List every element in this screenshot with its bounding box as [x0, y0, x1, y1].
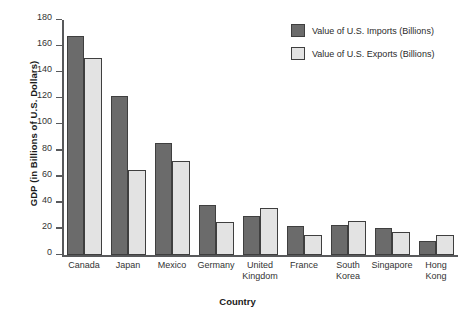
x-tick-label: Mexico	[151, 260, 193, 271]
bar-imports	[67, 36, 85, 255]
bar-group	[194, 20, 238, 255]
legend-swatch-imports	[291, 24, 305, 37]
y-tick-label: 140	[37, 64, 52, 74]
x-tick-label: Canada	[63, 260, 105, 271]
x-tick-label: Japan	[107, 260, 149, 271]
bar-imports	[419, 241, 437, 255]
legend-item: Value of U.S. Imports (Billions)	[291, 24, 434, 37]
legend-item: Value of U.S. Exports (Billions)	[291, 47, 434, 60]
x-tick-label: HongKong	[415, 260, 457, 282]
y-tick-label: 0	[47, 247, 52, 257]
bar-exports	[304, 235, 322, 255]
bar-imports	[375, 228, 393, 255]
bar-imports	[199, 205, 217, 255]
bar-exports	[216, 222, 234, 255]
y-tick-label: 100	[37, 116, 52, 126]
bar-group	[238, 20, 282, 255]
bar-exports	[392, 232, 410, 256]
y-axis-title: GDP (in Billions of U.S. Dollars)	[28, 29, 39, 239]
bar-exports	[84, 58, 102, 255]
x-axis-line	[62, 255, 458, 257]
bar-chart: GDP (in Billions of U.S. Dollars) 020406…	[0, 0, 475, 320]
bar-group	[106, 20, 150, 255]
bar-imports	[287, 226, 305, 255]
legend-swatch-exports	[291, 47, 305, 60]
x-tick-label: Germany	[195, 260, 237, 271]
x-tick-label: UnitedKingdom	[239, 260, 281, 282]
legend-label: Value of U.S. Exports (Billions)	[312, 49, 434, 59]
y-tick-label: 60	[42, 169, 52, 179]
bar-group	[150, 20, 194, 255]
bar-imports	[155, 143, 173, 255]
legend-label: Value of U.S. Imports (Billions)	[312, 26, 434, 36]
bar-imports	[331, 225, 349, 255]
y-tick-label: 80	[42, 143, 52, 153]
bar-imports	[243, 216, 261, 255]
chart-legend: Value of U.S. Imports (Billions)Value of…	[291, 24, 434, 70]
y-tick-label: 120	[37, 90, 52, 100]
bar-exports	[260, 208, 278, 255]
x-tick-label: France	[283, 260, 325, 271]
x-tick-label: SouthKorea	[327, 260, 369, 282]
y-tick-label: 180	[37, 12, 52, 22]
bar-imports	[111, 96, 129, 255]
y-tick-label: 160	[37, 38, 52, 48]
y-tick-label: 20	[42, 221, 52, 231]
bar-exports	[436, 235, 454, 255]
bar-exports	[172, 161, 190, 255]
y-tick-label: 40	[42, 195, 52, 205]
x-tick-label: Singapore	[371, 260, 413, 271]
bar-group	[62, 20, 106, 255]
bar-exports	[128, 170, 146, 255]
x-axis-title: Country	[0, 296, 475, 307]
bar-exports	[348, 221, 366, 255]
